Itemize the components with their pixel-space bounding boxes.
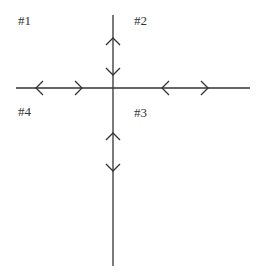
quadrant-label-4: #4 [18,105,31,118]
quadrant-label-2: #2 [134,14,147,27]
quadrant-label-1: #1 [18,14,31,27]
quadrant-diagram: #1 #2 #3 #4 [0,0,262,278]
axes-graphic [0,0,262,278]
quadrant-label-3: #3 [134,106,147,119]
